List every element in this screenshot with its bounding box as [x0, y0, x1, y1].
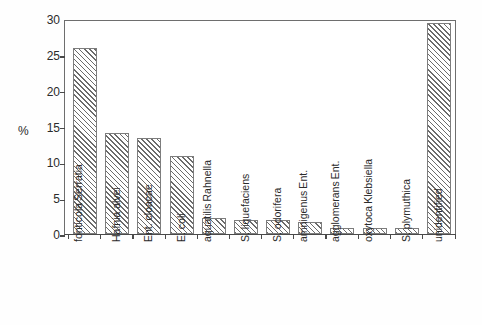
x-category-label-line: unidentified	[432, 188, 443, 242]
x-tick-mark	[229, 234, 230, 239]
x-tick-mark	[422, 234, 423, 239]
y-tick-mark	[60, 235, 65, 236]
y-axis-title: %	[18, 124, 29, 138]
x-category-label-line: E. coli	[175, 213, 186, 242]
x-category-label-line: Rahnella	[202, 160, 213, 201]
x-category-label-line: amnigenus	[298, 191, 309, 242]
x-tick-mark	[100, 234, 101, 239]
x-tick-mark	[455, 234, 456, 239]
x-category-label-line: oxytoca	[363, 206, 374, 242]
y-tick-label: 5	[36, 192, 60, 206]
bar-chart-figure: % 051015202530 fonticolaSerratiaHafnia a…	[0, 0, 482, 325]
x-category-label-line: Ent. cloacae	[143, 184, 154, 242]
x-tick-mark	[165, 234, 166, 239]
y-tick-mark	[60, 92, 65, 93]
x-category-label-line: Ent.	[330, 161, 341, 180]
y-tick-label: 25	[36, 49, 60, 63]
y-tick-mark	[60, 200, 65, 201]
x-tick-mark	[325, 234, 326, 239]
plot-area	[64, 20, 456, 235]
y-tick-label: 30	[36, 13, 60, 27]
x-category-label-line: S. odorifera	[272, 188, 283, 242]
x-tick-mark	[261, 234, 262, 239]
y-axis-tick-labels: 051015202530	[36, 0, 60, 325]
x-category-label-line: agglomerans	[330, 181, 341, 242]
x-category-label-line: fonticola	[73, 203, 84, 242]
x-category-label-line: Klebsiella	[363, 159, 374, 204]
x-tick-mark	[358, 234, 359, 239]
x-tick-mark	[390, 234, 391, 239]
x-category-label-line: Serratia	[73, 164, 84, 201]
y-tick-label: 0	[36, 228, 60, 242]
x-category-label-line: S. plymuthica	[400, 179, 411, 242]
x-category-label-line: S. liquefaciens	[239, 174, 250, 242]
y-tick-label: 10	[36, 156, 60, 170]
y-tick-mark	[60, 164, 65, 165]
x-category-label-line: Hafnia alvei	[111, 187, 122, 242]
x-tick-mark	[197, 234, 198, 239]
x-tick-mark	[68, 234, 69, 239]
x-category-label-line: Ent.	[298, 170, 309, 189]
bars-container	[65, 21, 455, 234]
x-category-label-line: aquatilis	[202, 203, 213, 242]
x-tick-mark	[132, 234, 133, 239]
x-tick-mark	[293, 234, 294, 239]
y-tick-label: 15	[36, 121, 60, 135]
y-tick-label: 20	[36, 85, 60, 99]
y-tick-mark	[60, 128, 65, 129]
y-tick-mark	[60, 56, 65, 57]
